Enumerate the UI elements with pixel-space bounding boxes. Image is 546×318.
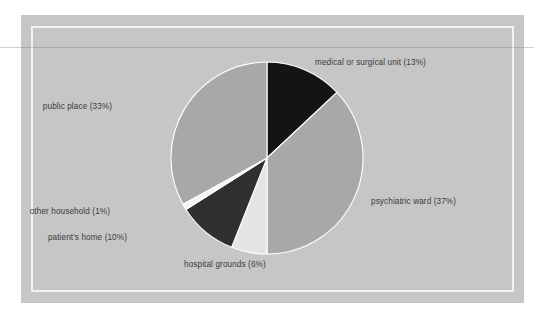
pie-slice-label: patient's home (10%): [48, 233, 127, 243]
pie-chart-svg: [0, 0, 546, 318]
pie-slice-label: other household (1%): [30, 207, 110, 217]
pie-slice-group: [171, 62, 363, 254]
chart-figure: medical or surgical unit (13%)psychiatri…: [0, 0, 546, 318]
pie-chart-plot: medical or surgical unit (13%)psychiatri…: [0, 0, 546, 318]
pie-slice-label: medical or surgical unit (13%): [315, 58, 426, 68]
pie-slice-label: hospital grounds (6%): [184, 260, 266, 270]
pie-slice-label: psychiatric ward (37%): [371, 197, 456, 207]
pie-slice-label: public place (33%): [43, 102, 112, 112]
